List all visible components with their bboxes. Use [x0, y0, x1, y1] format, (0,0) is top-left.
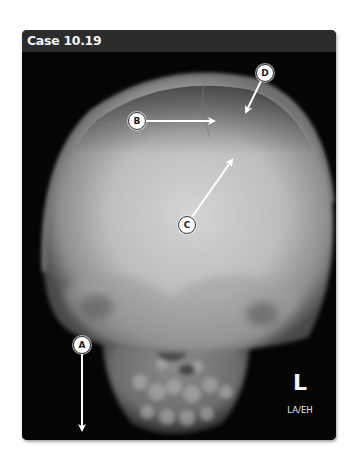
callout-d: D	[256, 64, 274, 82]
callout-a: A	[73, 336, 91, 354]
callout-c: C	[178, 216, 196, 234]
operator-initials: LA/EH	[284, 405, 316, 415]
panel-header: Case 10.19	[22, 30, 336, 52]
callout-b: B	[128, 112, 146, 130]
radiograph-panel: Case 10.19	[22, 30, 336, 440]
skull-radiograph-image	[22, 52, 336, 440]
case-title: Case 10.19	[27, 33, 101, 48]
left-side-marker: L	[290, 370, 310, 395]
